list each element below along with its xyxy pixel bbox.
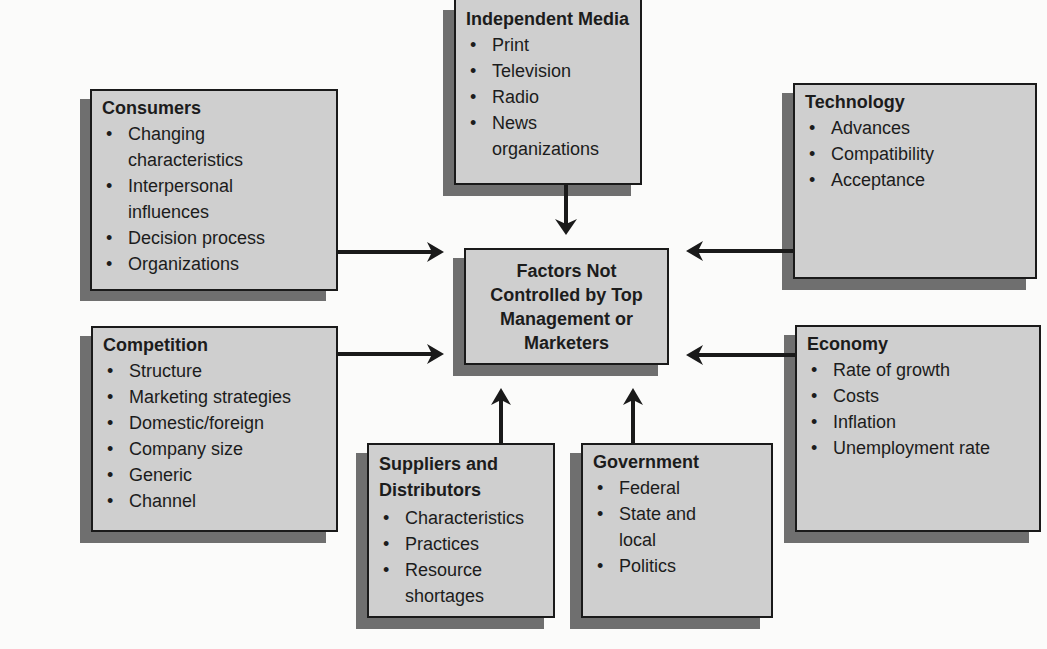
list-item: Changing characteristics <box>102 121 278 173</box>
central-label: Factors Not Controlled by Top Management… <box>470 259 663 355</box>
list-item: Organizations <box>102 251 326 277</box>
list-item: Domestic/foreign <box>103 410 326 436</box>
list-item: News organizations <box>466 110 630 162</box>
box-title: Independent Media <box>466 8 630 30</box>
list-item: Costs <box>807 383 1029 409</box>
box-government: Government Federal State and local Polit… <box>581 443 773 618</box>
box-list: Advances Compatibility Acceptance <box>805 115 1025 193</box>
list-item: Politics <box>593 553 761 579</box>
box-title: Suppliers and Distributors <box>379 451 519 503</box>
list-item: Rate of growth <box>807 357 1029 383</box>
list-item: Decision process <box>102 225 326 251</box>
box-title: Competition <box>103 334 326 356</box>
box-title: Technology <box>805 91 1025 113</box>
list-item: Inflation <box>807 409 1029 435</box>
list-item: Print <box>466 32 630 58</box>
box-suppliers-distributors: Suppliers and Distributors Characteristi… <box>367 443 555 618</box>
box-list: Characteristics Practices Resource short… <box>379 505 543 609</box>
list-item: Company size <box>103 436 326 462</box>
list-item: Radio <box>466 84 630 110</box>
box-competition: Competition Structure Marketing strategi… <box>91 326 338 532</box>
list-item: Practices <box>379 531 543 557</box>
list-item: Advances <box>805 115 1025 141</box>
list-item: Channel <box>103 488 326 514</box>
list-item: Television <box>466 58 630 84</box>
box-list: Rate of growth Costs Inflation Unemploym… <box>807 357 1029 461</box>
box-title: Economy <box>807 333 1029 355</box>
box-central-factors: Factors Not Controlled by Top Management… <box>464 248 669 365</box>
list-item: Compatibility <box>805 141 1025 167</box>
box-consumers: Consumers Changing characteristics Inter… <box>90 89 338 291</box>
list-item: Interpersonal influences <box>102 173 278 225</box>
box-independent-media: Independent Media Print Television Radio… <box>454 0 642 185</box>
list-item: Acceptance <box>805 167 1025 193</box>
box-economy: Economy Rate of growth Costs Inflation U… <box>795 325 1041 532</box>
list-item: Marketing strategies <box>103 384 326 410</box>
list-item: Characteristics <box>379 505 543 531</box>
list-item: Federal <box>593 475 761 501</box>
box-list: Structure Marketing strategies Domestic/… <box>103 358 326 514</box>
box-title: Government <box>593 451 761 473</box>
box-technology: Technology Advances Compatibility Accept… <box>793 83 1037 279</box>
list-item: State and local <box>593 501 719 553</box>
list-item: Structure <box>103 358 326 384</box>
box-list: Print Television Radio News organization… <box>466 32 630 162</box>
list-item: Unemployment rate <box>807 435 1029 461</box>
list-item: Generic <box>103 462 326 488</box>
box-list: Federal State and local Politics <box>593 475 761 579</box>
list-item: Resource shortages <box>379 557 505 609</box>
box-list: Changing characteristics Interpersonal i… <box>102 121 326 277</box>
box-title: Consumers <box>102 97 326 119</box>
